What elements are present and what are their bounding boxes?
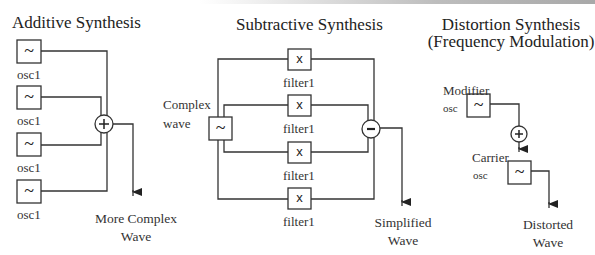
sine-wave-icon: ~ (467, 96, 490, 114)
distortion-subtitle: (Frequency Modulation) (428, 33, 595, 50)
filter-x-icon: x (288, 145, 311, 158)
osc-label: osc1 (17, 114, 41, 127)
subtractive-output-label: Simplified (375, 216, 432, 230)
subtractive-output-label-2: Wave (388, 234, 418, 248)
complex-wave-label-2: wave (163, 117, 190, 130)
additive-output-label-2: Wave (121, 230, 151, 244)
distortion-output-label-2: Wave (533, 236, 563, 250)
filter-label: filter1 (283, 76, 315, 89)
distortion-title: Distortion Synthesis (442, 16, 580, 33)
sine-wave-icon: ~ (17, 88, 41, 106)
subtractive-title: Subtractive Synthesis (236, 16, 383, 33)
carrier-osc-label: osc (473, 170, 488, 181)
filter-x-icon: x (288, 52, 311, 65)
additive-output-label: More Complex (95, 212, 177, 226)
modifier-osc-label: osc (443, 103, 458, 114)
sine-wave-icon: ~ (508, 163, 531, 181)
filter-x-icon: x (288, 191, 311, 204)
sine-wave-icon: ~ (17, 42, 41, 60)
osc-label: osc1 (17, 68, 41, 81)
filter-label: filter1 (283, 122, 315, 135)
osc-label: osc1 (17, 161, 41, 174)
distortion-output-label: Distorted (523, 218, 573, 232)
carrier-label: Carrier (472, 151, 509, 164)
complex-wave-label: Complex (163, 98, 211, 111)
sine-wave-icon: ~ (209, 119, 232, 137)
additive-title: Additive Synthesis (12, 14, 141, 31)
sine-wave-icon: ~ (17, 135, 41, 153)
filter-label: filter1 (283, 169, 315, 182)
filter-label: filter1 (283, 215, 315, 228)
sine-wave-icon: ~ (17, 182, 41, 200)
filter-x-icon: x (288, 98, 311, 111)
osc-label: osc1 (17, 208, 41, 221)
